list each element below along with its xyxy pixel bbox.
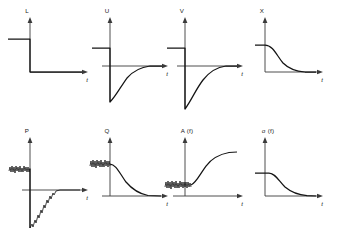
panel-X: X t xyxy=(243,4,329,114)
y-axis-arrow xyxy=(108,17,113,23)
panel-sigma-xlabel: t xyxy=(321,200,323,207)
panel-A-ylabel: A (f) xyxy=(181,127,193,134)
noise-pre-P xyxy=(9,166,30,173)
panel-P-ylabel: P xyxy=(25,127,29,134)
curve-L xyxy=(8,39,82,72)
panel-sigma-ylabel: σ (f) xyxy=(262,127,274,134)
y-axis-arrow xyxy=(263,17,268,23)
curve-sigma xyxy=(255,173,316,196)
curve-X xyxy=(255,45,316,72)
panel-A: A (f) t xyxy=(163,124,249,234)
panel-L-ylabel: L xyxy=(25,7,29,14)
panel-V: V t xyxy=(163,4,249,114)
curve-A xyxy=(191,152,237,185)
curve-V xyxy=(167,48,237,109)
noise-pre-A xyxy=(165,181,191,189)
y-axis-arrow xyxy=(183,137,188,143)
panel-P: P t xyxy=(8,124,94,234)
panel-X-ylabel: X xyxy=(260,7,264,14)
panel-Q: Q t xyxy=(88,124,174,234)
curve-Q xyxy=(110,164,161,196)
figure-panel-grid: L t U t V t xyxy=(0,0,341,240)
noise-pre-Q xyxy=(90,160,110,168)
panel-sigma: σ (f) t xyxy=(243,124,329,234)
y-axis-arrow xyxy=(108,137,113,143)
panel-V-ylabel: V xyxy=(180,7,185,14)
noise-recovery-P xyxy=(30,190,80,228)
y-axis-arrow xyxy=(183,17,188,23)
y-axis-arrow xyxy=(28,137,33,143)
x-axis-arrow xyxy=(317,70,323,75)
y-axis-arrow xyxy=(28,17,33,23)
panel-U: U t xyxy=(88,4,174,114)
x-axis-arrow xyxy=(317,194,323,199)
panel-Q-ylabel: Q xyxy=(104,127,109,134)
y-axis-arrow xyxy=(263,137,268,143)
panel-X-xlabel: t xyxy=(321,76,323,83)
curve-U xyxy=(92,48,162,102)
panel-U-ylabel: U xyxy=(105,7,110,14)
panel-L: L t xyxy=(8,4,94,114)
